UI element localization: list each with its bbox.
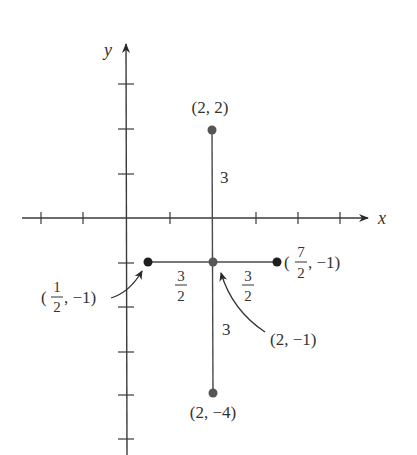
- coordinate-plane: x y (2, 2) (2, −4) (2, −1) ( 1 2 , −1): [0, 0, 417, 455]
- x-axis: x: [22, 208, 386, 228]
- distance-upper: 3: [220, 168, 229, 187]
- x-axis-label: x: [377, 208, 386, 228]
- point-center: [209, 258, 218, 267]
- distance-left: 3 2: [175, 268, 187, 304]
- paren-open: (: [284, 253, 290, 272]
- point-left: [144, 258, 153, 267]
- distance-lower: 3: [222, 320, 231, 339]
- label-center-point: (2, −1): [270, 330, 316, 349]
- fraction-numerator: 3: [177, 268, 185, 284]
- label-bottom-point: (2, −4): [190, 403, 236, 422]
- fraction-denominator: 2: [297, 265, 305, 281]
- paren-close: , −1): [64, 288, 96, 307]
- fraction-numerator: 1: [53, 279, 61, 295]
- point-bottom: [209, 389, 218, 398]
- paren-close: , −1): [308, 253, 340, 272]
- point-top: [208, 126, 217, 135]
- label-top-point: (2, 2): [192, 98, 229, 117]
- y-axis: y: [102, 40, 134, 455]
- distance-right: 3 2: [242, 268, 254, 304]
- label-left-point: ( 1 2 , −1): [41, 279, 96, 315]
- fraction-numerator: 7: [297, 244, 305, 260]
- fraction-denominator: 2: [244, 288, 252, 304]
- label-right-point: ( 7 2 , −1): [284, 244, 340, 281]
- fraction-denominator: 2: [177, 288, 185, 304]
- y-axis-line: [126, 44, 127, 455]
- paren-open: (: [41, 288, 47, 307]
- fraction-numerator: 3: [244, 268, 252, 284]
- y-axis-label: y: [102, 40, 112, 60]
- fraction-denominator: 2: [53, 299, 61, 315]
- point-right: [273, 258, 282, 267]
